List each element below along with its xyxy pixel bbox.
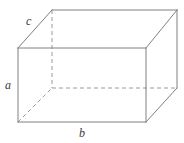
depth-bottom-right-edge (146, 88, 177, 122)
height-label-a: a (5, 79, 11, 91)
depth-label-c: c (26, 15, 31, 27)
width-label-b: b (79, 127, 85, 139)
depth-top-right-edge (146, 10, 177, 48)
depth-top-left-edge (18, 10, 52, 48)
prism-figure: c a b (0, 0, 184, 143)
front-face-fill (18, 48, 146, 122)
